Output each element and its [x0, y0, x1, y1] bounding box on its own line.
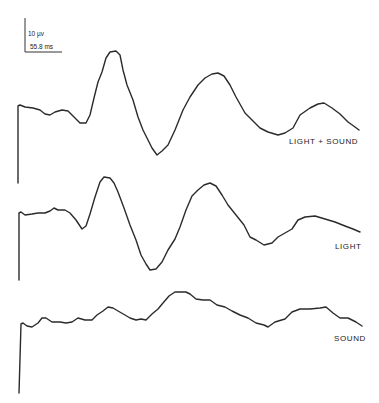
scale-time-label: 55.8 ms: [30, 43, 53, 50]
trace-sound: [19, 292, 362, 393]
label-light: LIGHT: [335, 242, 362, 251]
scale-voltage-label: 10 µv: [28, 30, 44, 37]
trace-light: [19, 177, 360, 280]
evoked-potential-chart: [0, 0, 379, 403]
label-sound: SOUND: [334, 334, 366, 343]
label-light-plus-sound: LIGHT + SOUND: [289, 137, 358, 146]
trace-light-plus-sound: [18, 51, 359, 183]
